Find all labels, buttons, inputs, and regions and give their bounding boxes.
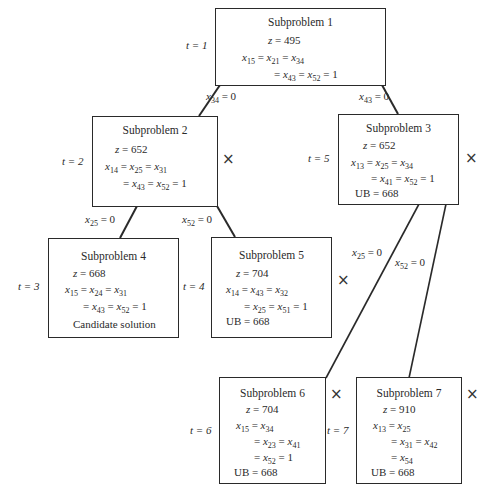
edge-label-1-2: x34 = 0 bbox=[206, 90, 236, 102]
node-note: Candidate solution bbox=[73, 317, 156, 332]
node-vars-1: x14 = x43 = x32 bbox=[226, 282, 288, 297]
node-title: Subproblem 2 bbox=[93, 123, 217, 138]
node-title: Subproblem 3 bbox=[339, 121, 458, 136]
node-title: Subproblem 5 bbox=[212, 248, 331, 263]
edge-label-2-5: x52 = 0 bbox=[182, 213, 212, 225]
node-vars-2: = x41 = x52 = 1 bbox=[371, 171, 435, 186]
node-ub: UB = 668 bbox=[234, 465, 277, 480]
node-vars-1: x15 = x21 = x34 bbox=[242, 50, 304, 65]
node-vars-1: x13 = x25 = x34 bbox=[351, 155, 413, 170]
node-title: Subproblem 1 bbox=[216, 15, 385, 30]
node-vars-2: = x43 = x52 = 1 bbox=[123, 176, 187, 191]
fathomed-mark-3: × bbox=[465, 149, 478, 167]
node-vars-1: x15 = x24 = x31 bbox=[65, 282, 127, 297]
subproblem-7-node: Subproblem 7 z = 910 x13 = x25 = x31 = x… bbox=[356, 377, 462, 484]
t-label-6: t = 6 bbox=[190, 424, 211, 436]
node-vars-1: x15 = x34 bbox=[236, 418, 274, 433]
subproblem-5-node: Subproblem 5 z = 704 x14 = x43 = x32 = x… bbox=[211, 237, 332, 338]
subproblem-6-node: Subproblem 6 z = 704 x15 = x34 = x23 = x… bbox=[219, 377, 326, 484]
node-vars-2: = x25 = x51 = 1 bbox=[244, 299, 308, 314]
edge-label-3-7: x52 = 0 bbox=[395, 256, 425, 268]
node-z: z = 652 bbox=[363, 138, 396, 153]
t-label-7: t = 7 bbox=[327, 424, 348, 436]
fathomed-mark-6: × bbox=[330, 385, 343, 403]
node-ub: UB = 668 bbox=[355, 186, 398, 201]
node-ub: UB = 668 bbox=[226, 314, 269, 329]
node-vars-3: = x52 = 1 bbox=[254, 450, 293, 465]
node-z: z = 704 bbox=[236, 266, 269, 281]
t-label-5: t = 4 bbox=[183, 280, 204, 292]
node-ub: UB = 668 bbox=[371, 465, 414, 480]
edge-2-4 bbox=[120, 206, 137, 238]
edge-3-6 bbox=[326, 204, 419, 378]
t-label-2: t = 2 bbox=[62, 155, 83, 167]
node-vars-2: = x43 = x52 = 1 bbox=[83, 299, 147, 314]
edge-3-7 bbox=[409, 204, 446, 378]
subproblem-4-node: Subproblem 4 z = 668 x15 = x24 = x31 = x… bbox=[48, 238, 179, 338]
node-z: z = 495 bbox=[268, 33, 301, 48]
node-vars-1: x14 = x25 = x31 bbox=[105, 159, 167, 174]
edge-label-3-6: x25 = 0 bbox=[352, 246, 382, 258]
subproblem-2-node: Subproblem 2 z = 652 x14 = x25 = x31 = x… bbox=[92, 116, 218, 207]
node-title: Subproblem 6 bbox=[220, 386, 325, 401]
t-label-1: t = 1 bbox=[186, 39, 207, 51]
edge-2-5 bbox=[217, 206, 235, 237]
node-vars-3: = x54 bbox=[391, 450, 413, 465]
node-z: z = 704 bbox=[246, 402, 279, 417]
node-z: z = 652 bbox=[115, 142, 148, 157]
node-z: z = 910 bbox=[383, 402, 416, 417]
fathomed-mark-5: × bbox=[337, 271, 350, 289]
edge-label-2-4: x25 = 0 bbox=[85, 213, 115, 225]
node-vars-2: = x31 = x42 bbox=[391, 434, 437, 449]
node-title: Subproblem 7 bbox=[357, 386, 461, 401]
t-label-3: t = 5 bbox=[308, 152, 329, 164]
fathomed-mark-2: × bbox=[222, 150, 235, 168]
node-vars-1: x13 = x25 bbox=[373, 418, 411, 433]
t-label-4: t = 3 bbox=[18, 280, 39, 292]
node-z: z = 668 bbox=[73, 266, 106, 281]
edge-label-1-3: x43 = 0 bbox=[359, 90, 389, 102]
node-vars-2: = x43 = x52 = 1 bbox=[274, 67, 338, 82]
node-title: Subproblem 4 bbox=[49, 249, 178, 264]
fathomed-mark-7: × bbox=[466, 385, 479, 403]
subproblem-1-node: Subproblem 1 z = 495 x15 = x21 = x34 = x… bbox=[215, 8, 386, 86]
node-vars-2: = x23 = x41 bbox=[254, 434, 300, 449]
subproblem-3-node: Subproblem 3 z = 652 x13 = x25 = x34 = x… bbox=[338, 114, 459, 205]
